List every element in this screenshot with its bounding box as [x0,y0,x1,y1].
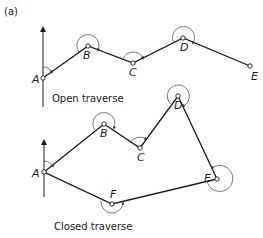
traverse-polygon [44,96,217,204]
closed-traverse-caption: Closed traverse [54,221,132,232]
station-marker [42,170,46,174]
open-traverse-caption: Open traverse [52,93,124,104]
station-label: E [251,70,258,83]
station-label: D [174,99,182,112]
station-label: E [204,172,211,185]
traverse-diagram: (a) A B C D E Open traverse [0,0,263,238]
station-label: F [110,188,117,201]
station-marker [248,64,252,68]
angle-arc-icon [123,52,143,59]
station-label: C [137,151,145,164]
open-traverse: A B C D E Open traverse [31,26,258,107]
station-marker [102,122,106,126]
station-label: A [31,73,40,86]
station-marker [131,61,135,65]
station-marker [215,177,219,181]
station-label: A [31,167,40,180]
station-marker [110,202,114,206]
station-marker [181,36,185,40]
angle-arc-icon [43,67,52,72]
station-label: D [180,41,188,54]
station-marker [138,146,142,150]
station-label: C [129,66,137,79]
station-marker [41,76,45,80]
station-label: B [83,49,91,62]
closed-traverse: A B C D E F Closed traverse [31,85,233,232]
station-label: B [100,127,108,140]
station-marker [176,94,180,98]
part-label: (a) [4,6,18,17]
station-marker [86,44,90,48]
traverse-line [43,38,250,78]
